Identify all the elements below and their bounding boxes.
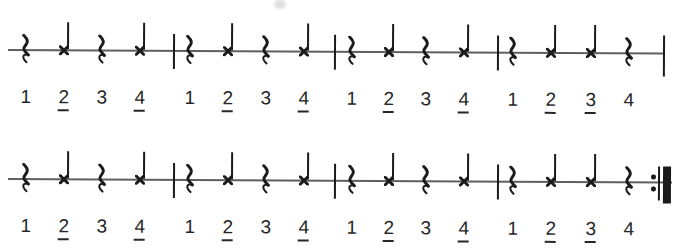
- repeat-dot-lower: [651, 186, 656, 191]
- beat-number: 4: [128, 216, 152, 238]
- beat-underline: [58, 109, 69, 111]
- x-notehead-icon: [299, 47, 309, 57]
- quarter-rest-icon: [96, 164, 108, 195]
- x-notehead-icon: [586, 48, 596, 58]
- x-notehead-icon: [223, 175, 233, 185]
- beat-underline: [585, 112, 596, 114]
- final-barline-thick: [663, 166, 671, 203]
- beat-underline: [585, 241, 596, 243]
- beat-number: 4: [128, 87, 152, 109]
- measure-barline: [173, 163, 175, 198]
- beat-number: 3: [414, 217, 438, 239]
- beat-underline: [222, 110, 233, 112]
- quarter-rest-icon: [184, 35, 196, 66]
- beat-underline: [58, 238, 69, 240]
- beat-underline: [383, 111, 394, 113]
- x-notehead-icon: [59, 174, 69, 184]
- quarter-rest-icon: [260, 35, 272, 66]
- beat-number: 2: [539, 218, 563, 240]
- sheet-music-page: 1 2 3 4 1 2 3 4 1 2 3 4 1 2 3 4 1 2: [0, 0, 679, 250]
- x-notehead-icon: [586, 177, 596, 187]
- beat-number: 2: [52, 86, 76, 108]
- beat-underline: [458, 240, 469, 242]
- quarter-rest-icon: [420, 165, 432, 196]
- final-barline-thin: [658, 166, 660, 200]
- beat-underline: [383, 240, 394, 242]
- quarter-rest-icon: [507, 166, 519, 197]
- beat-number: 2: [216, 216, 240, 238]
- beat-underline: [298, 240, 309, 242]
- beat-underline: [545, 112, 556, 114]
- beat-number: 2: [539, 89, 563, 111]
- quarter-rest-icon: [184, 164, 196, 195]
- beat-number: 1: [340, 217, 364, 239]
- x-notehead-icon: [459, 176, 469, 186]
- beat-number: 2: [377, 217, 401, 239]
- beat-number: 1: [501, 218, 525, 240]
- beat-number: 1: [14, 215, 38, 237]
- x-notehead-icon: [459, 47, 469, 57]
- beat-number: 3: [579, 89, 603, 111]
- beat-underline: [458, 111, 469, 113]
- beat-number: 3: [90, 86, 114, 108]
- quarter-rest-icon: [346, 165, 358, 196]
- beat-number: 1: [340, 88, 364, 110]
- x-notehead-icon: [135, 175, 145, 185]
- beat-number: 4: [292, 217, 316, 239]
- beat-number: 4: [452, 88, 476, 110]
- beat-underline: [134, 110, 145, 112]
- beat-number: 1: [14, 86, 38, 108]
- beat-number: 3: [414, 88, 438, 110]
- beat-number: 3: [579, 218, 603, 240]
- beat-number: 1: [178, 216, 202, 238]
- quarter-rest-icon: [20, 34, 32, 65]
- repeat-dot-upper: [651, 174, 656, 179]
- music-system-1: 1 2 3 4 1 2 3 4 1 2 3 4 1 2 3 4: [0, 0, 679, 129]
- beat-number: 3: [254, 87, 278, 109]
- x-notehead-icon: [546, 48, 556, 58]
- beat-number: 1: [501, 89, 525, 111]
- beat-number: 1: [178, 87, 202, 109]
- quarter-rest-icon: [346, 36, 358, 67]
- x-notehead-icon: [546, 177, 556, 187]
- beat-number: 2: [377, 88, 401, 110]
- beat-number: 2: [52, 215, 76, 237]
- quarter-rest-icon: [260, 164, 272, 195]
- x-notehead-icon: [299, 176, 309, 186]
- x-notehead-icon: [59, 45, 69, 55]
- x-notehead-icon: [384, 47, 394, 57]
- beat-underline: [134, 239, 145, 241]
- beat-number: 4: [617, 89, 641, 111]
- x-notehead-icon: [135, 46, 145, 56]
- beat-number: 3: [254, 216, 278, 238]
- measure-barline: [497, 165, 499, 200]
- music-system-2: 1 2 3 4 1 2 3 4 1 2 3 4 1 2 3 4: [0, 125, 679, 250]
- x-notehead-icon: [384, 176, 394, 186]
- final-barline-thin: [663, 35, 665, 76]
- measure-barline: [497, 36, 499, 71]
- beat-number: 4: [617, 218, 641, 240]
- beat-underline: [545, 241, 556, 243]
- quarter-rest-icon: [420, 36, 432, 67]
- measure-barline: [334, 164, 336, 199]
- x-notehead-icon: [223, 46, 233, 56]
- quarter-rest-icon: [623, 166, 635, 197]
- beat-number: 4: [452, 217, 476, 239]
- beat-number: 3: [90, 215, 114, 237]
- beat-number: 2: [216, 87, 240, 109]
- beat-underline: [298, 111, 309, 113]
- beat-underline: [222, 239, 233, 241]
- beat-number: 4: [292, 88, 316, 110]
- measure-barline: [334, 35, 336, 70]
- quarter-rest-icon: [96, 35, 108, 66]
- measure-barline: [173, 34, 175, 69]
- quarter-rest-icon: [623, 37, 635, 68]
- quarter-rest-icon: [507, 37, 519, 68]
- quarter-rest-icon: [20, 163, 32, 194]
